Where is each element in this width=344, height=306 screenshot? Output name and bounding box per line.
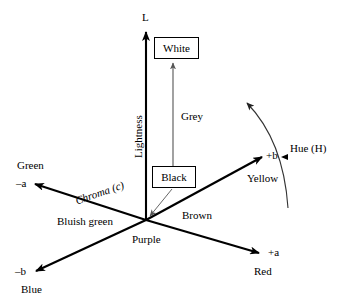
a-negative-label: –a [16, 178, 26, 189]
yellow-label: Yellow [247, 173, 278, 184]
hue-label: Hue (H) [290, 143, 326, 154]
lightness-axis-tip-label: L [142, 12, 149, 23]
b-negative-axis-line [36, 220, 146, 271]
a-positive-label: +a [268, 247, 279, 258]
red-label: Red [254, 266, 272, 277]
purple-label: Purple [132, 234, 161, 245]
black-box: Black [152, 166, 196, 188]
b-positive-label: +b [266, 150, 278, 161]
hue-pointer-tick [281, 154, 288, 160]
blue-label: Blue [21, 284, 42, 295]
grey-label: Grey [181, 111, 203, 122]
bluish-green-label: Bluish green [57, 216, 113, 227]
green-label: Green [17, 160, 44, 171]
lightness-axis-name-label: Lightness [133, 115, 144, 158]
b-negative-label: –b [15, 266, 26, 277]
diagram-canvas: L Lightness White Black Grey Green –a Ch… [0, 0, 344, 306]
a-positive-axis-line [146, 220, 259, 253]
brown-label: Brown [182, 210, 212, 221]
white-box: White [154, 37, 199, 59]
